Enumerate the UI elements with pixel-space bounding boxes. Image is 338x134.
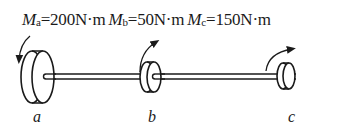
point-a-label: a xyxy=(33,108,41,126)
disk-a xyxy=(21,51,56,103)
disk-c xyxy=(277,63,295,89)
point-b-label: b xyxy=(148,108,156,126)
point-c-label: c xyxy=(288,108,295,126)
disk-b xyxy=(140,62,165,92)
shaft xyxy=(50,74,297,79)
